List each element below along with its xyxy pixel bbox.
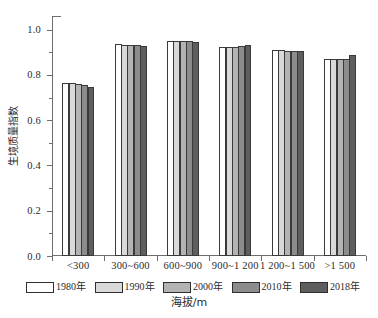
legend-label: 2018年: [330, 282, 360, 292]
legend-swatch: [26, 282, 54, 293]
legend-swatch: [232, 282, 260, 293]
x-axis-tick-labels: <300300~600600~900900~1 2001 200~1 500>1…: [52, 259, 366, 275]
y-tick-label: 0.6: [27, 115, 41, 126]
legend-swatch: [95, 282, 123, 293]
bar-group: [261, 16, 313, 256]
bar: [349, 55, 356, 256]
legend-item[interactable]: 1990年: [95, 282, 155, 293]
bar: [140, 46, 147, 256]
x-category-label: <300: [67, 259, 89, 273]
y-tick-label: 0.8: [27, 70, 41, 81]
x-tick: [366, 256, 367, 261]
legend-swatch: [300, 282, 328, 293]
bar-group: [314, 16, 366, 256]
legend-label: 1990年: [125, 282, 155, 292]
bar-group: [52, 16, 104, 256]
x-category-label: 300~600: [111, 259, 150, 273]
y-tick-label: 0.4: [27, 161, 41, 172]
bar: [192, 42, 199, 256]
chart-legend: 1980年1990年2000年2010年2018年: [26, 279, 360, 295]
legend-label: 1980年: [56, 282, 86, 292]
legend-item[interactable]: 1980年: [26, 282, 86, 293]
bars-layer: [52, 16, 366, 256]
bar-group: [209, 16, 261, 256]
bar: [245, 45, 252, 256]
y-tick-label: 1.0: [27, 25, 41, 36]
bar-chart-figure: 生境质量指数 0.00.20.40.60.81.0 <300300~600600…: [0, 0, 378, 318]
bar-group: [157, 16, 209, 256]
bar-group: [104, 16, 156, 256]
x-axis-title: 海拔/m: [0, 297, 378, 308]
legend-item[interactable]: 2018年: [300, 282, 360, 293]
y-tick-label: 0.0: [27, 251, 41, 262]
legend-item[interactable]: 2000年: [163, 282, 223, 293]
x-category-label: 600~900: [164, 259, 203, 273]
y-axis-title: 生境质量指数: [9, 106, 19, 166]
y-tick-label: 0.2: [27, 206, 41, 217]
x-category-label: 900~1 200: [212, 259, 259, 273]
legend-label: 2000年: [193, 282, 223, 292]
bar: [297, 51, 304, 256]
plot-area: 0.00.20.40.60.81.0: [52, 16, 366, 256]
legend-label: 2010年: [262, 282, 292, 292]
legend-swatch: [163, 282, 191, 293]
bar: [88, 87, 95, 256]
x-category-label: 1 200~1 500: [260, 259, 315, 273]
x-category-label: >1 500: [324, 259, 355, 273]
legend-item[interactable]: 2010年: [232, 282, 292, 293]
